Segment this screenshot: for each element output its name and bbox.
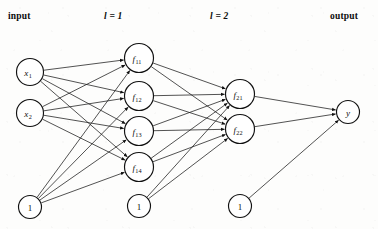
edge-x1-to-f11 xyxy=(44,60,124,70)
node-x2[interactable]: x2 xyxy=(17,100,44,127)
node-b1[interactable]: 1 xyxy=(128,195,151,218)
node-f13[interactable]: f13 xyxy=(125,117,154,146)
edge-b0-to-f13 xyxy=(40,140,126,200)
edge-b0-to-f11 xyxy=(37,71,130,198)
edge-f21-to-y xyxy=(255,96,336,109)
node-f14[interactable]: f14 xyxy=(125,153,154,182)
network-diagram-canvas: input l = 1 l = 2 output x1x21f11f12f13f… xyxy=(0,0,378,229)
edge-b1-to-f21 xyxy=(147,106,230,198)
network-graph: x1x21f11f12f13f141f21f221y xyxy=(0,0,378,229)
node-b0[interactable]: 1 xyxy=(19,196,42,219)
edge-b2-to-y xyxy=(249,120,339,198)
edge-x1-to-f14 xyxy=(41,81,128,157)
edge-x2-to-f14 xyxy=(43,119,126,160)
node-label-y: y xyxy=(345,108,350,118)
node-label-b1: 1 xyxy=(137,202,142,212)
edge-f22-to-y xyxy=(255,114,336,127)
node-f11[interactable]: f11 xyxy=(125,44,154,73)
node-f22[interactable]: f22 xyxy=(226,115,255,144)
edge-x2-to-f13 xyxy=(44,115,124,128)
node-x1[interactable]: x1 xyxy=(17,59,44,86)
edge-b0-to-f14 xyxy=(41,172,124,203)
node-b2[interactable]: 1 xyxy=(229,195,252,218)
edge-b1-to-f22 xyxy=(149,138,228,198)
node-layer: x1x21f11f12f13f141f21f221y xyxy=(17,44,360,219)
edge-b0-to-f12 xyxy=(38,107,128,198)
edge-f12-to-f21 xyxy=(154,94,225,95)
node-y[interactable]: y xyxy=(337,101,360,124)
node-f21[interactable]: f21 xyxy=(226,80,255,109)
edge-layer xyxy=(37,60,338,203)
node-label-b0: 1 xyxy=(28,203,33,213)
node-f12[interactable]: f12 xyxy=(125,82,154,111)
node-label-b2: 1 xyxy=(238,202,243,212)
edge-x1-to-f12 xyxy=(44,75,124,93)
